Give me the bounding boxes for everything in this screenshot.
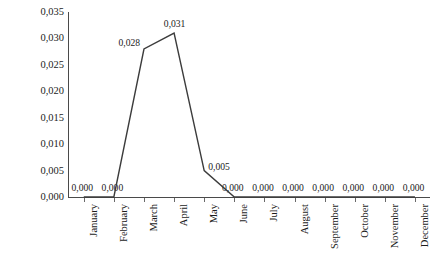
- x-axis-category-label: August: [300, 204, 311, 234]
- y-axis-tick-label: 0,010: [20, 139, 64, 150]
- y-axis-tick-label: 0,015: [20, 113, 64, 124]
- data-point-label: 0,028: [118, 38, 140, 48]
- y-axis-line: [68, 12, 69, 198]
- x-axis-tick-mark: [264, 198, 265, 202]
- data-point-label: 0,005: [208, 162, 230, 172]
- x-axis-category-label: July: [269, 204, 280, 222]
- x-axis-category-label: May: [209, 204, 220, 223]
- series-line: [0, 0, 437, 275]
- y-axis-tick-label: 0,030: [20, 33, 64, 44]
- data-point-label: 0,000: [102, 183, 124, 193]
- data-point-label: 0,031: [164, 19, 186, 29]
- x-axis-tick-mark: [204, 198, 205, 202]
- x-axis-tick-mark: [84, 198, 85, 202]
- x-axis-tick-mark: [415, 198, 416, 202]
- x-axis-tick-mark: [295, 198, 296, 202]
- x-axis-tick-mark: [174, 198, 175, 202]
- x-axis-category-label: June: [239, 204, 250, 223]
- data-point-label: 0,000: [252, 183, 274, 193]
- y-axis-tick-label: 0,005: [20, 166, 64, 177]
- x-axis-category-label: October: [360, 204, 371, 238]
- data-point-label: 0,000: [403, 183, 425, 193]
- data-point-label: 0,000: [282, 183, 304, 193]
- x-axis-category-label: December: [420, 204, 431, 247]
- x-axis-tick-mark: [114, 198, 115, 202]
- x-axis-category-label: November: [390, 204, 401, 248]
- x-axis-tick-mark: [355, 198, 356, 202]
- x-axis-tick-mark: [325, 198, 326, 202]
- x-axis-category-label: February: [119, 204, 130, 242]
- x-axis-tick-mark: [385, 198, 386, 202]
- y-axis-tick-label: 0,000: [20, 192, 64, 203]
- y-axis-tick-label: 0,025: [20, 60, 64, 71]
- data-point-label: 0,000: [342, 183, 364, 193]
- data-point-label: 0,000: [312, 183, 334, 193]
- x-axis-category-label: January: [89, 204, 100, 237]
- y-axis-tick-label: 0,035: [20, 7, 64, 18]
- data-point-label: 0,000: [72, 183, 94, 193]
- x-axis-tick-mark: [234, 198, 235, 202]
- x-axis-category-label: April: [179, 204, 190, 226]
- line-chart: Flies per Trap per Day- FTD 0,0350,0300,…: [0, 0, 437, 275]
- x-axis-line: [68, 197, 430, 198]
- y-axis-tick-labels: 0,0350,0300,0250,0200,0150,0100,0050,000: [16, 0, 64, 275]
- x-axis-category-label: March: [149, 204, 160, 231]
- data-point-label: 0,000: [222, 183, 244, 193]
- data-point-label: 0,000: [373, 183, 395, 193]
- x-axis-category-label: September: [330, 204, 341, 249]
- x-axis-tick-mark: [144, 198, 145, 202]
- y-axis-tick-label: 0,020: [20, 86, 64, 97]
